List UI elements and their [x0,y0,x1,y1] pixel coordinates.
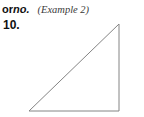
right-triangle-shape [29,24,119,111]
problem-number-label: 10. [3,18,20,33]
example-reference-text: (Example 2) [38,4,90,15]
exercise-instruction-line: orno.(Example 2) [2,0,144,15]
right-triangle-figure [0,0,144,117]
instruction-emphasis-text: no. [13,3,30,15]
worksheet-page: orno.(Example 2) 10. [0,0,144,117]
instruction-prefix-text: or [2,3,13,15]
right-triangle-svg [0,0,144,117]
